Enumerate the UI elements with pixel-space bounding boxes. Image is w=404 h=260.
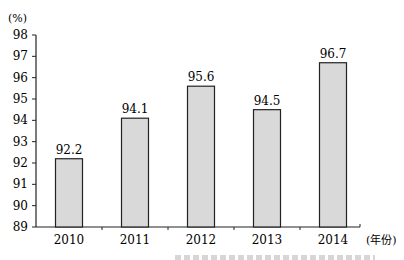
x-tick-label: 2010 bbox=[54, 233, 85, 247]
x-tick-label: 2013 bbox=[252, 233, 283, 247]
caption-cropped bbox=[175, 255, 375, 260]
bar bbox=[320, 63, 347, 227]
y-tick-label: 89 bbox=[13, 220, 28, 234]
bar-value-label: 94.5 bbox=[254, 94, 281, 108]
y-tick-label: 91 bbox=[13, 177, 28, 191]
bar bbox=[122, 118, 149, 227]
y-axis-unit-label: (%) bbox=[8, 12, 27, 25]
y-axis: (%)89909192939495969798 bbox=[8, 12, 36, 234]
y-tick-label: 94 bbox=[13, 113, 29, 127]
bar bbox=[56, 159, 83, 227]
bar bbox=[254, 110, 281, 227]
x-axis-unit-label: (年份) bbox=[366, 233, 397, 247]
x-tick-label: 2012 bbox=[186, 233, 217, 247]
y-tick-label: 92 bbox=[13, 156, 28, 170]
bars: 92.294.195.694.596.7 bbox=[56, 47, 347, 227]
bar-value-label: 92.2 bbox=[56, 143, 83, 157]
y-tick-label: 93 bbox=[13, 135, 28, 149]
bar bbox=[188, 86, 215, 227]
bar-value-label: 94.1 bbox=[122, 102, 149, 116]
bar-value-label: 96.7 bbox=[320, 47, 347, 61]
y-tick-label: 90 bbox=[13, 199, 28, 213]
bar-value-label: 95.6 bbox=[188, 70, 215, 84]
x-tick-label: 2014 bbox=[318, 233, 349, 247]
y-tick-label: 98 bbox=[13, 28, 28, 42]
bar-chart: (%)89909192939495969798 (年份)201020112012… bbox=[0, 0, 404, 260]
y-tick-label: 95 bbox=[13, 92, 28, 106]
y-tick-label: 97 bbox=[13, 49, 28, 63]
x-tick-label: 2011 bbox=[120, 233, 151, 247]
y-tick-label: 96 bbox=[13, 71, 28, 85]
